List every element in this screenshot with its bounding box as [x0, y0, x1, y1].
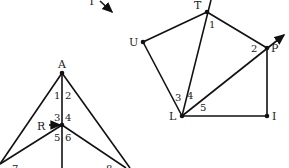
point-i: [265, 114, 270, 119]
point-l: [180, 114, 185, 119]
segment-a-right: [62, 73, 130, 168]
point-label-l: L: [169, 110, 177, 123]
angle-label: 5: [54, 132, 60, 143]
point-label-r: R: [37, 120, 46, 133]
point-a: [60, 71, 65, 76]
angle-label: 6: [65, 132, 71, 143]
geometry-diagram: T A R 1 2 3 4 5 6 7 8 T: [0, 0, 289, 168]
angle-label: 4: [65, 112, 71, 123]
point-label-i: I: [272, 110, 276, 123]
point-label-a: A: [57, 58, 67, 71]
point-t: [205, 10, 210, 15]
angle-label: 1: [54, 90, 60, 101]
right-figure: T U P L I 1 2 3 4 5: [129, 0, 284, 123]
top-left-fragment: T: [88, 0, 112, 12]
segment-tp: [207, 12, 267, 48]
angle-label: 5: [200, 102, 206, 113]
angle-label: 2: [251, 43, 257, 54]
angle-label: 1: [209, 19, 215, 30]
point-u: [141, 40, 146, 45]
segment-ut: [143, 12, 207, 42]
angle-label: 4: [187, 90, 193, 101]
segment-r-right: [62, 125, 126, 168]
segment-ul: [143, 42, 182, 116]
segment-a-left: [0, 73, 62, 164]
angle-label: 3: [175, 92, 181, 103]
point-label-t: T: [194, 0, 202, 12]
arrow-icon: [100, 1, 112, 12]
point-r: [60, 123, 65, 128]
angle-label: 2: [65, 90, 71, 101]
angle-label: 7: [12, 163, 18, 168]
point-p: [265, 46, 270, 51]
segment-r-left: [0, 125, 62, 164]
angle-label: 8: [106, 163, 112, 168]
point-label-t-fragment: T: [88, 0, 96, 8]
left-figure: A R 1 2 3 4 5 6 7 8: [0, 58, 130, 168]
point-label-u: U: [129, 36, 138, 49]
point-label-p: P: [271, 42, 279, 55]
angle-label: 3: [54, 112, 60, 123]
